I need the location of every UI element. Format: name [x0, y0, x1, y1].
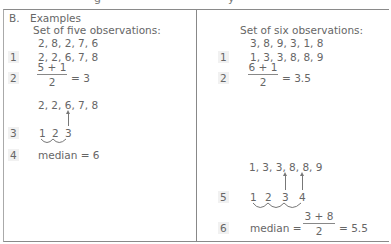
- denominator: 2: [37, 76, 67, 88]
- step-number: 2: [8, 72, 19, 84]
- arrow-up-icon: [68, 113, 69, 126]
- step-number: 3: [8, 127, 19, 139]
- arrow-up-icon: [302, 175, 303, 190]
- right-median-label: median =: [250, 222, 302, 234]
- numerator: 3 + 8: [303, 210, 335, 222]
- denominator: 2: [303, 225, 335, 237]
- step-number: 6: [218, 222, 229, 234]
- denominator: 2: [248, 76, 278, 88]
- left-position-result: = 3: [71, 72, 90, 84]
- counting-arcs-icon: [252, 202, 307, 212]
- section-label: B.: [9, 12, 20, 24]
- step-number: 1: [8, 51, 19, 63]
- right-median-result: = 5.5: [339, 222, 368, 234]
- numerator: 6 + 1: [248, 61, 278, 73]
- column-divider: [196, 10, 197, 242]
- left-raw-data: 2, 8, 2, 7, 6: [38, 37, 98, 49]
- left-median: median = 6: [38, 149, 100, 161]
- step-number: 5: [218, 191, 229, 203]
- cut-text-right: y: [228, 0, 235, 5]
- numerator: 5 + 1: [37, 61, 67, 73]
- step-number: 4: [8, 149, 19, 161]
- right-median-fraction: 3 + 8 2: [303, 210, 335, 237]
- step-number: 1: [218, 51, 229, 63]
- left-heading: Set of five observations:: [33, 24, 161, 36]
- cut-text-left: g: [94, 0, 101, 5]
- counting-arcs-icon: [40, 138, 70, 146]
- arrow-up-icon: [285, 175, 286, 190]
- section-title: Examples: [30, 12, 81, 24]
- left-position-fraction: 5 + 1 2: [37, 61, 67, 88]
- right-position-fraction: 6 + 1 2: [248, 61, 278, 88]
- right-heading: Set of six observations:: [240, 24, 363, 36]
- step-number: 2: [218, 72, 229, 84]
- right-position-result: = 3.5: [282, 72, 311, 84]
- right-raw-data: 3, 8, 9, 3, 1, 8: [250, 37, 323, 49]
